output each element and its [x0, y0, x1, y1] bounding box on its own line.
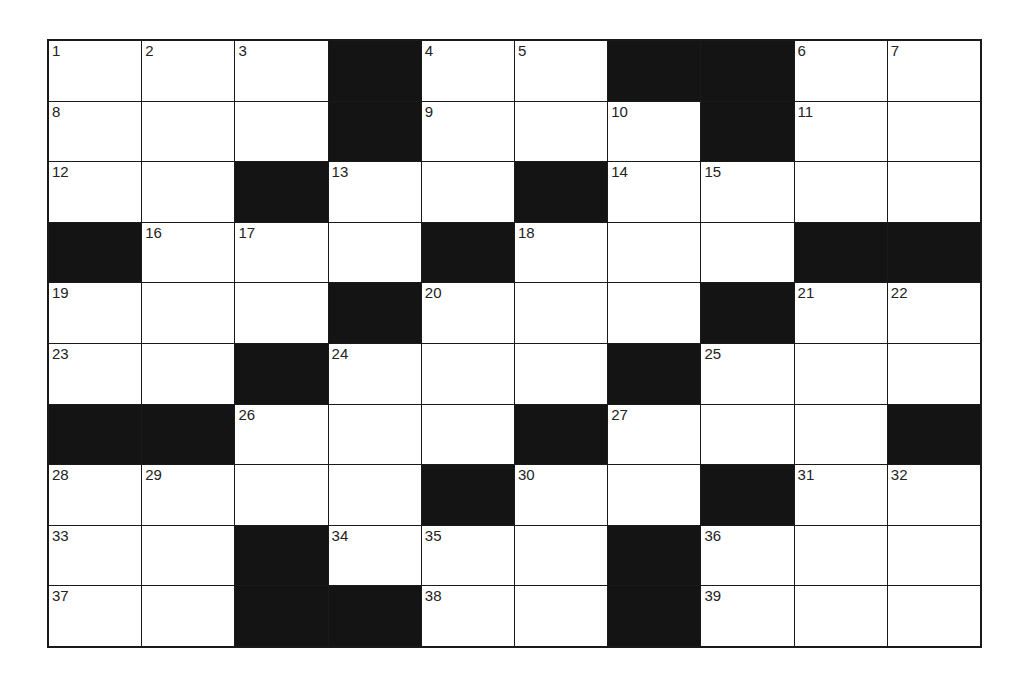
letter-cell[interactable]	[235, 283, 327, 343]
letter-cell[interactable]	[795, 526, 887, 586]
letter-cell[interactable]	[515, 586, 607, 646]
clue-number: 26	[238, 407, 255, 422]
letter-cell[interactable]	[142, 283, 234, 343]
clue-number: 21	[798, 285, 815, 300]
letter-cell[interactable]: 37	[49, 586, 141, 646]
letter-cell[interactable]: 24	[329, 344, 421, 404]
block-cell	[235, 586, 327, 646]
block-cell	[701, 102, 793, 162]
letter-cell[interactable]	[888, 344, 980, 404]
clue-number: 17	[238, 225, 255, 240]
letter-cell[interactable]: 30	[515, 465, 607, 525]
block-cell	[422, 223, 514, 283]
letter-cell[interactable]	[888, 526, 980, 586]
block-cell	[142, 405, 234, 465]
clue-number: 30	[518, 467, 535, 482]
letter-cell[interactable]: 3	[235, 41, 327, 101]
letter-cell[interactable]	[515, 526, 607, 586]
block-cell	[701, 465, 793, 525]
letter-cell[interactable]: 2	[142, 41, 234, 101]
letter-cell[interactable]: 23	[49, 344, 141, 404]
block-cell	[888, 223, 980, 283]
clue-number: 39	[704, 588, 721, 603]
clue-number: 28	[52, 467, 69, 482]
letter-cell[interactable]: 35	[422, 526, 514, 586]
letter-cell[interactable]	[235, 465, 327, 525]
letter-cell[interactable]	[235, 102, 327, 162]
block-cell	[235, 526, 327, 586]
letter-cell[interactable]: 31	[795, 465, 887, 525]
letter-cell[interactable]	[329, 465, 421, 525]
letter-cell[interactable]: 32	[888, 465, 980, 525]
letter-cell[interactable]	[795, 586, 887, 646]
letter-cell[interactable]	[142, 162, 234, 222]
letter-cell[interactable]: 39	[701, 586, 793, 646]
letter-cell[interactable]	[422, 344, 514, 404]
letter-cell[interactable]: 15	[701, 162, 793, 222]
letter-cell[interactable]	[701, 223, 793, 283]
letter-cell[interactable]	[701, 405, 793, 465]
clue-number: 19	[52, 285, 69, 300]
letter-cell[interactable]: 11	[795, 102, 887, 162]
letter-cell[interactable]: 12	[49, 162, 141, 222]
letter-cell[interactable]	[515, 102, 607, 162]
letter-cell[interactable]: 29	[142, 465, 234, 525]
letter-cell[interactable]	[422, 405, 514, 465]
letter-cell[interactable]	[515, 344, 607, 404]
block-cell	[422, 465, 514, 525]
letter-cell[interactable]	[888, 162, 980, 222]
letter-cell[interactable]	[795, 405, 887, 465]
letter-cell[interactable]: 36	[701, 526, 793, 586]
letter-cell[interactable]	[888, 102, 980, 162]
letter-cell[interactable]: 33	[49, 526, 141, 586]
letter-cell[interactable]: 16	[142, 223, 234, 283]
letter-cell[interactable]	[888, 586, 980, 646]
letter-cell[interactable]: 28	[49, 465, 141, 525]
letter-cell[interactable]: 34	[329, 526, 421, 586]
letter-cell[interactable]: 1	[49, 41, 141, 101]
letter-cell[interactable]: 8	[49, 102, 141, 162]
letter-cell[interactable]	[795, 162, 887, 222]
letter-cell[interactable]	[329, 405, 421, 465]
block-cell	[49, 223, 141, 283]
block-cell	[608, 41, 700, 101]
clue-number: 14	[611, 164, 628, 179]
letter-cell[interactable]: 10	[608, 102, 700, 162]
letter-cell[interactable]: 5	[515, 41, 607, 101]
letter-cell[interactable]	[608, 465, 700, 525]
letter-cell[interactable]	[329, 223, 421, 283]
letter-cell[interactable]: 9	[422, 102, 514, 162]
block-cell	[329, 41, 421, 101]
letter-cell[interactable]	[608, 223, 700, 283]
letter-cell[interactable]: 18	[515, 223, 607, 283]
letter-cell[interactable]	[608, 283, 700, 343]
block-cell	[329, 102, 421, 162]
letter-cell[interactable]	[142, 344, 234, 404]
letter-cell[interactable]	[422, 162, 514, 222]
letter-cell[interactable]: 4	[422, 41, 514, 101]
letter-cell[interactable]: 17	[235, 223, 327, 283]
letter-cell[interactable]	[142, 586, 234, 646]
letter-cell[interactable]: 22	[888, 283, 980, 343]
clue-number: 38	[425, 588, 442, 603]
letter-cell[interactable]: 38	[422, 586, 514, 646]
letter-cell[interactable]	[142, 102, 234, 162]
letter-cell[interactable]	[515, 283, 607, 343]
letter-cell[interactable]: 25	[701, 344, 793, 404]
letter-cell[interactable]: 20	[422, 283, 514, 343]
letter-cell[interactable]: 6	[795, 41, 887, 101]
letter-cell[interactable]: 13	[329, 162, 421, 222]
block-cell	[515, 405, 607, 465]
letter-cell[interactable]: 27	[608, 405, 700, 465]
letter-cell[interactable]: 7	[888, 41, 980, 101]
letter-cell[interactable]: 26	[235, 405, 327, 465]
clue-number: 31	[798, 467, 815, 482]
block-cell	[515, 162, 607, 222]
letter-cell[interactable]	[142, 526, 234, 586]
letter-cell[interactable]: 19	[49, 283, 141, 343]
clue-number: 20	[425, 285, 442, 300]
letter-cell[interactable]	[795, 344, 887, 404]
letter-cell[interactable]: 14	[608, 162, 700, 222]
block-cell	[608, 344, 700, 404]
letter-cell[interactable]: 21	[795, 283, 887, 343]
